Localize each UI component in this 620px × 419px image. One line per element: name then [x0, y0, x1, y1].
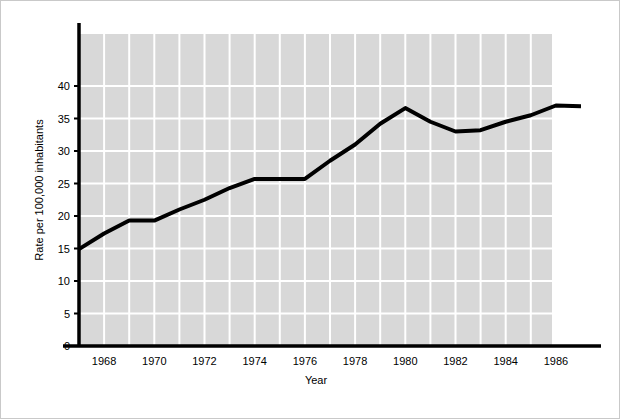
y-tick-label: 15 [58, 243, 70, 255]
x-axis-title: Year [305, 374, 328, 386]
y-tick-label: 10 [58, 275, 70, 287]
x-tick-label: 1986 [544, 355, 568, 367]
figure-frame: 0510152025303540 19681970197219741976197… [0, 0, 620, 419]
x-tick-label: 1982 [443, 355, 467, 367]
y-tick-label: 30 [58, 145, 70, 157]
y-tick-label: 35 [58, 113, 70, 125]
x-tick-label: 1980 [393, 355, 417, 367]
x-tick-label: 1972 [192, 355, 216, 367]
y-tick-label: 0 [64, 340, 70, 352]
y-tick-label: 20 [58, 210, 70, 222]
x-axis-tick-labels: 1968197019721974197619781980198219841986 [92, 355, 568, 367]
gridlines [79, 34, 581, 346]
x-tick-label: 1968 [92, 355, 116, 367]
y-tick-label: 40 [58, 80, 70, 92]
x-tick-label: 1984 [493, 355, 517, 367]
x-tick-label: 1974 [242, 355, 266, 367]
x-tick-label: 1976 [293, 355, 317, 367]
y-axis-title: Rate per 100,000 inhabitants [33, 119, 45, 261]
chart-canvas: 0510152025303540 19681970197219741976197… [1, 1, 620, 419]
line-chart: 0510152025303540 19681970197219741976197… [1, 1, 620, 419]
y-tick-label: 5 [64, 308, 70, 320]
y-tick-label: 25 [58, 178, 70, 190]
y-axis-tick-labels: 0510152025303540 [58, 80, 70, 352]
x-tick-label: 1978 [343, 355, 367, 367]
x-tick-label: 1970 [142, 355, 166, 367]
